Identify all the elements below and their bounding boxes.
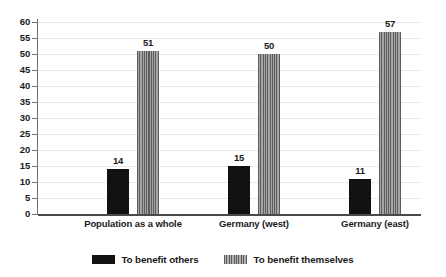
legend-swatch-icon bbox=[92, 255, 115, 264]
y-axis-tick-label: 25 bbox=[2, 129, 30, 139]
bar[interactable] bbox=[137, 51, 159, 214]
grid-line bbox=[38, 22, 421, 23]
bar-chart: 605550454035302520151050 145115501157 Po… bbox=[0, 0, 446, 277]
grid-line bbox=[38, 70, 421, 71]
legend-item[interactable]: To benefit others bbox=[92, 255, 198, 265]
y-axis-tick-label: 5 bbox=[2, 193, 30, 203]
bar[interactable] bbox=[258, 54, 280, 214]
legend-item[interactable]: To benefit themselves bbox=[224, 255, 353, 265]
y-axis-tick: 30 bbox=[0, 113, 30, 123]
legend-label: To benefit themselves bbox=[253, 255, 353, 265]
x-axis-category-label: Germany (west) bbox=[184, 219, 324, 229]
y-axis-tick: 10 bbox=[0, 177, 30, 187]
y-axis-tick: 15 bbox=[0, 161, 30, 171]
bar-value-label: 51 bbox=[129, 38, 167, 48]
bar-value-label: 50 bbox=[250, 41, 288, 51]
bar[interactable] bbox=[349, 179, 371, 214]
bar-value-label: 14 bbox=[99, 156, 137, 166]
y-axis-tick-label: 20 bbox=[2, 145, 30, 155]
y-axis-tick-label: 0 bbox=[2, 209, 30, 219]
grid-line bbox=[38, 86, 421, 87]
bar[interactable] bbox=[379, 32, 401, 214]
bar-value-label: 11 bbox=[341, 166, 379, 176]
grid-line bbox=[38, 38, 421, 39]
bar-value-label: 15 bbox=[220, 153, 258, 163]
y-axis-tick: 45 bbox=[0, 65, 30, 75]
grid-line bbox=[38, 150, 421, 151]
y-axis-tick-label: 10 bbox=[2, 177, 30, 187]
y-axis-tick-label: 60 bbox=[2, 17, 30, 27]
grid-line bbox=[38, 102, 421, 103]
y-axis-tick-label: 55 bbox=[2, 33, 30, 43]
y-axis-tick: 35 bbox=[0, 97, 30, 107]
grid-line bbox=[38, 134, 421, 135]
x-axis-line bbox=[38, 214, 421, 216]
y-axis-tick: 55 bbox=[0, 33, 30, 43]
y-axis-tick: 5 bbox=[0, 193, 30, 203]
legend-label: To benefit others bbox=[121, 255, 198, 265]
grid-line bbox=[38, 54, 421, 55]
y-axis-tick-label: 40 bbox=[2, 81, 30, 91]
y-axis-tick: 0 bbox=[0, 209, 30, 219]
bar-value-label: 57 bbox=[371, 19, 409, 29]
y-axis-tick: 20 bbox=[0, 145, 30, 155]
y-axis-tick-label: 35 bbox=[2, 97, 30, 107]
y-axis-tick-label: 50 bbox=[2, 49, 30, 59]
bar[interactable] bbox=[228, 166, 250, 214]
y-axis-tick: 60 bbox=[0, 17, 30, 27]
grid-line bbox=[38, 118, 421, 119]
chart-legend: To benefit othersTo benefit themselves bbox=[0, 255, 446, 265]
x-axis-category-label: Population as a whole bbox=[63, 219, 203, 229]
y-axis-tick-label: 15 bbox=[2, 161, 30, 171]
y-axis-line bbox=[37, 19, 38, 215]
y-axis-tick: 25 bbox=[0, 129, 30, 139]
legend-swatch-icon bbox=[224, 255, 247, 264]
y-axis-tick: 50 bbox=[0, 49, 30, 59]
bar[interactable] bbox=[107, 169, 129, 214]
y-axis-tick-label: 30 bbox=[2, 113, 30, 123]
y-axis-tick-label: 45 bbox=[2, 65, 30, 75]
y-axis-tick: 40 bbox=[0, 81, 30, 91]
x-axis-category-label: Germany (east) bbox=[305, 219, 445, 229]
